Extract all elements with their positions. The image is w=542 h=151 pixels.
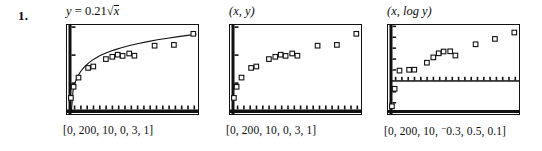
caption-prefix: [0, 200, 10, bbox=[384, 125, 441, 137]
data-point bbox=[315, 43, 320, 48]
panel-fit-title-eq: = bbox=[72, 4, 85, 18]
data-point bbox=[152, 43, 157, 48]
x-axis-line bbox=[230, 110, 361, 114]
panel-xlogy-title: (x, log y) bbox=[387, 4, 432, 19]
data-point bbox=[436, 51, 441, 56]
y-axis-line bbox=[390, 25, 393, 114]
data-point bbox=[127, 51, 132, 56]
data-point bbox=[290, 51, 295, 56]
data-point bbox=[512, 30, 517, 35]
data-point bbox=[91, 64, 96, 69]
figure-container: 1. y = 0.21√x bbox=[0, 0, 542, 151]
data-point bbox=[448, 49, 453, 54]
data-point bbox=[249, 66, 254, 71]
panel-fit-title: y = 0.21√x bbox=[66, 4, 119, 19]
data-point bbox=[172, 43, 177, 48]
panel-fit-caption: [0, 200, 10, 0, 3, 1] bbox=[63, 124, 153, 136]
data-point bbox=[69, 96, 74, 101]
data-point bbox=[110, 55, 115, 60]
data-point bbox=[453, 53, 458, 58]
panel-fit-plot-area bbox=[67, 25, 198, 114]
data-point bbox=[354, 32, 359, 37]
panel-xlogy-plot-area bbox=[388, 25, 519, 114]
data-point bbox=[431, 55, 436, 60]
panel-fit-title-coeff: 0.21 bbox=[85, 4, 107, 18]
data-point bbox=[76, 75, 81, 80]
data-point bbox=[390, 104, 395, 109]
data-point bbox=[115, 52, 120, 57]
data-point bbox=[412, 67, 417, 72]
data-point bbox=[493, 37, 498, 42]
panel-xy-caption: [0, 200, 10, 0, 3, 1] bbox=[226, 124, 316, 136]
data-point bbox=[267, 57, 272, 62]
data-point bbox=[473, 42, 478, 47]
data-point bbox=[104, 57, 109, 62]
panel-xy-title: (x, y) bbox=[229, 4, 255, 19]
data-point bbox=[407, 68, 412, 73]
sqrt-icon: √x bbox=[107, 4, 119, 19]
data-point bbox=[392, 87, 397, 92]
panel-xy-svg bbox=[230, 25, 361, 114]
panel-xy-plot-area bbox=[230, 25, 361, 114]
data-point bbox=[273, 55, 278, 60]
data-point bbox=[239, 75, 244, 80]
panel-fit-svg bbox=[67, 25, 198, 114]
panel-xlogy-caption: [0, 200, 10, −0.3, 0.5, 0.1] bbox=[384, 124, 506, 137]
panel-xlogy-svg bbox=[388, 25, 519, 114]
data-point bbox=[191, 32, 196, 37]
data-point bbox=[425, 60, 430, 65]
caption-suffix: 0.3, 0.5, 0.1] bbox=[446, 125, 506, 137]
data-point bbox=[295, 53, 300, 58]
panel-xlogy-screen[interactable] bbox=[387, 24, 520, 115]
panel-xy-screen[interactable] bbox=[229, 24, 362, 115]
frame-bottom bbox=[388, 110, 519, 113]
data-point bbox=[71, 85, 76, 90]
data-point bbox=[86, 66, 91, 71]
panel-fit-screen[interactable] bbox=[66, 24, 199, 115]
data-point bbox=[335, 43, 340, 48]
exercise-number: 1. bbox=[18, 8, 28, 24]
data-point bbox=[283, 54, 288, 59]
data-point bbox=[234, 85, 239, 90]
zero-axis-line bbox=[392, 80, 519, 82]
data-point bbox=[278, 52, 283, 57]
data-point bbox=[120, 54, 125, 59]
data-point bbox=[132, 53, 137, 58]
data-point bbox=[254, 64, 259, 69]
x-axis-line bbox=[67, 110, 198, 114]
data-point bbox=[397, 68, 402, 73]
data-point bbox=[441, 49, 446, 54]
data-point bbox=[232, 96, 237, 101]
panel-fit-title-radicand: x bbox=[114, 4, 120, 18]
